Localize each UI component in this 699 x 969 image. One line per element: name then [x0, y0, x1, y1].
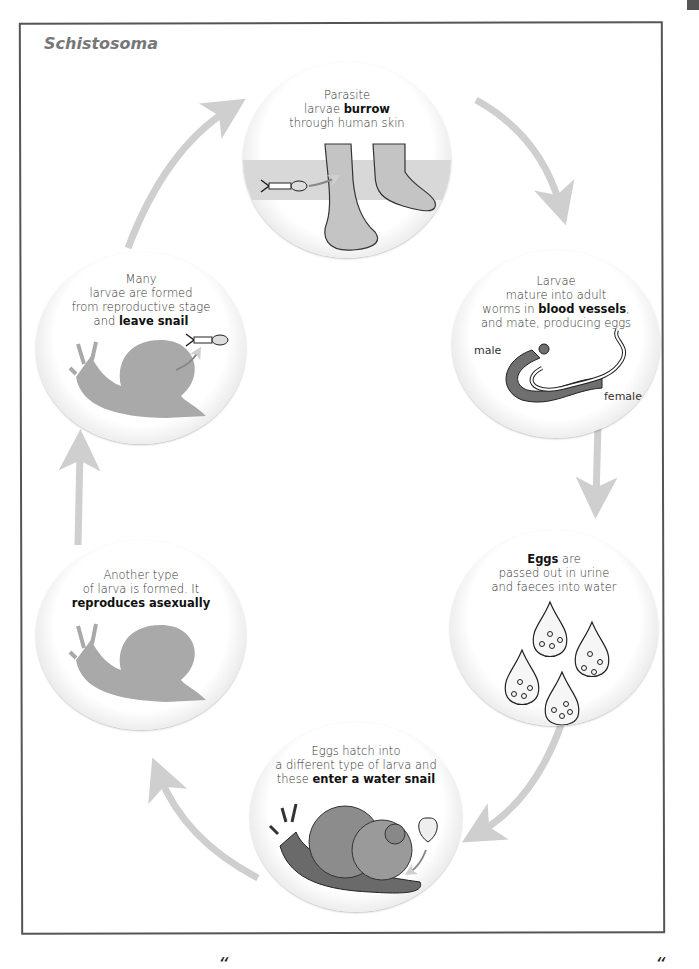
water-snail-illustration: [250, 722, 462, 912]
arrow-leave-to-burrow: [128, 110, 228, 248]
arrow-asexual-to-leave: [78, 450, 80, 545]
egg-drop-icon: [533, 602, 567, 657]
arrow-hatch-to-asexual: [160, 777, 258, 878]
arrow-eggs-to-hatch: [480, 722, 562, 832]
feet-in-water-illustration: [243, 62, 451, 258]
male-label: male: [474, 344, 501, 357]
stage-asexual: Another type of larva is formed. It repr…: [36, 540, 246, 730]
arrow-burrow-to-mature: [476, 100, 560, 205]
egg-drop-icon: [545, 672, 579, 725]
stage-eggs: Eggs are passed out in urine and faeces …: [450, 530, 658, 726]
female-label: female: [604, 390, 642, 403]
egg-drop-icon: [575, 622, 609, 677]
stage-burrow: Parasite larvae burrow through human ski…: [243, 62, 451, 258]
larva-icon: [186, 334, 228, 346]
footer-mark-left: “: [218, 952, 228, 969]
footer-mark-right: “: [655, 952, 665, 969]
snail-silhouette-larva-illustration: [36, 252, 246, 444]
egg-drops-illustration: [450, 530, 658, 726]
stage-leave: Many larvae are formed from reproductive…: [36, 252, 246, 444]
snail-silhouette-illustration: [36, 540, 246, 730]
stage-mature: Larvae mature into adult worms in blood …: [452, 250, 660, 438]
stage-hatch: Eggs hatch into a different type of larv…: [250, 722, 462, 912]
